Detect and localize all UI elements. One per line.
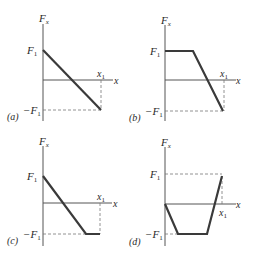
panel-tag: (b) [129,112,141,124]
force-curve [165,51,223,111]
neg-f1-label: −F1 [145,105,163,119]
force-graphs-figure: Fx x x1 F1 −F1 (a) Fx x x1 F1 −F1 (b) Fx… [0,0,256,256]
panel-tag: (a) [7,111,19,123]
panel-tag: (c) [7,235,19,247]
y-axis-label: Fx [38,12,50,26]
neg-f1-label: −F1 [23,104,41,118]
pos-f1-label: F1 [149,168,161,182]
panel-c: Fx x x1 F1 −F1 (c) [7,135,118,247]
force-curve [165,176,222,234]
x-axis-label: x [113,75,119,86]
pos-f1-label: F1 [26,44,38,58]
y-axis-label: Fx [160,14,172,28]
neg-f1-label: −F1 [145,228,163,242]
pos-f1-label: F1 [149,45,161,59]
x1-label: x1 [96,191,105,204]
x1-label: x1 [219,68,228,81]
panel-a: Fx x x1 F1 −F1 (a) [7,12,119,123]
panel-tag: (d) [129,236,141,248]
panel-b: Fx x x1 F1 −F1 (b) [129,14,241,124]
panel-d: Fx x x1 F1 −F1 (d) [129,136,241,248]
y-axis-label: Fx [38,135,50,149]
x-axis-label: x [112,198,118,209]
force-curve [43,176,100,234]
y-axis-label: Fx [160,136,172,150]
neg-f1-label: −F1 [23,228,41,242]
x-axis-label: x [235,199,241,210]
x1-label: x1 [96,68,105,81]
pos-f1-label: F1 [26,170,38,184]
x1-label: x1 [218,207,227,220]
x-axis-label: x [235,75,241,86]
